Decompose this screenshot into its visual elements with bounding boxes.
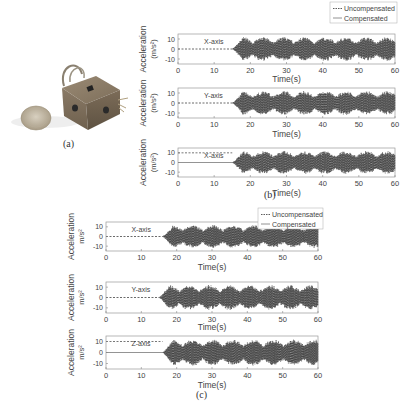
x-axis-label: Time(s) <box>272 129 301 139</box>
svg-text:40: 40 <box>243 315 251 324</box>
svg-text:30: 30 <box>208 371 216 380</box>
svg-text:60: 60 <box>314 371 322 380</box>
svg-text:50: 50 <box>278 315 286 324</box>
svg-text:10: 10 <box>95 223 103 230</box>
subplot-b-1: X-axis-100100102030405060Time(s)Accelera… <box>138 2 399 84</box>
y-axis-label: Acceleration <box>66 213 76 260</box>
svg-text:0: 0 <box>99 294 103 301</box>
svg-text:60: 60 <box>391 179 399 188</box>
svg-text:30: 30 <box>208 253 216 262</box>
svg-text:30: 30 <box>282 179 290 188</box>
svg-text:10: 10 <box>210 120 218 129</box>
svg-text:m/s²: m/s² <box>77 290 86 305</box>
svg-text:60: 60 <box>391 66 399 75</box>
svg-text:60: 60 <box>314 315 322 324</box>
svg-text:0: 0 <box>171 46 175 53</box>
svg-text:m/s²: m/s² <box>77 345 86 360</box>
legend: UncompensatedCompensated <box>258 208 323 229</box>
svg-text:0: 0 <box>99 349 103 356</box>
svg-text:-10: -10 <box>165 56 175 63</box>
svg-text:40: 40 <box>243 253 251 262</box>
axis-annotation: X-axis <box>204 152 224 159</box>
svg-text:(m/s²): (m/s²) <box>149 93 158 113</box>
figure: (a) X-axis-100100102030405060Time(s)Acce… <box>0 0 417 415</box>
svg-text:10: 10 <box>210 179 218 188</box>
svg-text:0: 0 <box>104 371 108 380</box>
svg-text:0: 0 <box>99 233 103 240</box>
svg-text:0: 0 <box>176 66 180 75</box>
svg-text:Uncompensated: Uncompensated <box>344 5 395 13</box>
x-axis-label: Time(s) <box>198 322 227 332</box>
svg-text:10: 10 <box>137 371 145 380</box>
x-axis-label: Time(s) <box>272 74 301 84</box>
svg-text:50: 50 <box>355 179 363 188</box>
svg-text:10: 10 <box>167 36 175 43</box>
svg-text:Uncompensated: Uncompensated <box>272 211 323 219</box>
svg-text:0: 0 <box>104 253 108 262</box>
svg-text:-10: -10 <box>93 243 103 250</box>
svg-text:-10: -10 <box>93 360 103 367</box>
legend: UncompensatedCompensated <box>330 2 397 23</box>
y-axis-label: Acceleration <box>66 329 76 376</box>
svg-text:10: 10 <box>95 284 103 291</box>
svg-text:20: 20 <box>172 315 180 324</box>
y-axis-label: Acceleration <box>138 139 148 186</box>
subplot-c-1: X-axis-100100102030405060Time(s)Accelera… <box>66 208 323 272</box>
svg-text:40: 40 <box>243 371 251 380</box>
svg-text:10: 10 <box>167 149 175 156</box>
svg-text:10: 10 <box>95 338 103 345</box>
caption-c: (c) <box>196 389 207 400</box>
svg-text:Compensated: Compensated <box>344 15 388 23</box>
svg-text:(m/s²): (m/s²) <box>149 152 158 172</box>
axis-annotation: X-axis <box>204 38 224 45</box>
svg-text:-10: -10 <box>165 169 175 176</box>
svg-text:10: 10 <box>167 90 175 97</box>
svg-text:40: 40 <box>318 66 326 75</box>
svg-text:10: 10 <box>137 315 145 324</box>
svg-text:0: 0 <box>104 315 108 324</box>
svg-text:20: 20 <box>172 371 180 380</box>
svg-text:Compensated: Compensated <box>272 221 316 229</box>
svg-text:50: 50 <box>278 253 286 262</box>
axis-annotation: Y-axis <box>131 286 150 293</box>
svg-text:40: 40 <box>318 179 326 188</box>
svg-text:60: 60 <box>314 253 322 262</box>
svg-text:0: 0 <box>171 159 175 166</box>
subplot-c-3: Z-axis-100100102030405060Time(s)Accelera… <box>66 329 322 390</box>
svg-text:0: 0 <box>176 120 180 129</box>
svg-text:40: 40 <box>318 120 326 129</box>
subplot-b-2: Y-axis-100100102030405060Time(s)Accelera… <box>138 79 399 139</box>
svg-text:20: 20 <box>246 179 254 188</box>
svg-text:50: 50 <box>355 66 363 75</box>
y-axis-label: Acceleration <box>138 79 148 126</box>
axis-annotation: X-axis <box>131 226 151 233</box>
svg-text:-10: -10 <box>165 110 175 117</box>
svg-text:20: 20 <box>246 66 254 75</box>
axis-annotation: Y-axis <box>204 92 223 99</box>
svg-text:30: 30 <box>282 120 290 129</box>
svg-text:50: 50 <box>278 371 286 380</box>
svg-text:50: 50 <box>355 120 363 129</box>
acceleration-charts: X-axis-100100102030405060Time(s)Accelera… <box>0 0 417 415</box>
subplot-c-2: Y-axis-100100102030405060Time(s)Accelera… <box>66 274 322 332</box>
svg-text:10: 10 <box>137 253 145 262</box>
svg-text:0: 0 <box>171 100 175 107</box>
svg-text:20: 20 <box>172 253 180 262</box>
svg-text:(m/s²): (m/s²) <box>149 39 158 59</box>
x-axis-label: Time(s) <box>272 188 301 198</box>
y-axis-label: Acceleration <box>138 25 148 72</box>
caption-b: (b) <box>264 189 276 200</box>
svg-text:60: 60 <box>391 120 399 129</box>
svg-text:20: 20 <box>246 120 254 129</box>
axis-annotation: Z-axis <box>131 340 151 347</box>
svg-text:10: 10 <box>210 66 218 75</box>
svg-text:-10: -10 <box>93 304 103 311</box>
x-axis-label: Time(s) <box>198 262 227 272</box>
y-axis-label: Acceleration <box>66 274 76 321</box>
svg-text:m/s²: m/s² <box>77 229 86 244</box>
svg-text:0: 0 <box>176 179 180 188</box>
